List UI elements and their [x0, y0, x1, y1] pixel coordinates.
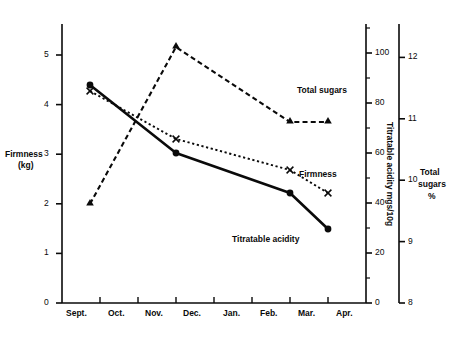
left-tick-label-2: 2 — [44, 199, 49, 209]
month-label-nov: Nov. — [145, 309, 163, 319]
month-label-jan: Jan. — [223, 309, 240, 319]
acidity-axis-title: Titratable acidity mgs/10g — [384, 122, 394, 226]
annotation-titratable-acidity: Titratable acidity — [232, 235, 299, 245]
right-axis-sugars — [399, 24, 405, 303]
x-axis — [62, 297, 366, 303]
acidity-tick-label-60: 60 — [375, 148, 384, 158]
left-tick-label-3: 3 — [44, 149, 49, 159]
month-label-mar: Mar. — [298, 309, 315, 319]
acidity-tick-label-20: 20 — [375, 248, 384, 258]
annotation-total-sugars: Total sugars — [297, 86, 347, 96]
sugars-axis-title-line2: sugars — [418, 180, 446, 190]
sugars-tick-label-10: 10 — [408, 175, 417, 185]
series-total-sugars — [86, 42, 332, 205]
left-tick-label-0: 0 — [44, 298, 49, 308]
sugars-tick-label-8: 8 — [408, 298, 413, 308]
sugars-tick-label-9: 9 — [408, 237, 413, 247]
month-label-apr: Apr. — [336, 309, 353, 319]
left-axis — [56, 24, 62, 303]
sugars-tick-label-11: 11 — [408, 114, 417, 124]
sugars-axis-title-line3: % — [428, 192, 436, 202]
left-axis-title-line2: (kg) — [18, 161, 34, 171]
left-tick-label-1: 1 — [44, 248, 49, 258]
annotation-firmness: Firmness — [299, 170, 337, 180]
month-label-feb: Feb. — [260, 309, 277, 319]
left-tick-label-4: 4 — [44, 100, 49, 110]
chart-container: 5 4 3 2 1 0 Firmness (kg) 100 80 60 40 2… — [0, 0, 451, 344]
series-titratable-acidity — [87, 82, 332, 233]
month-label-dec: Dec. — [183, 309, 201, 319]
right-axis-acidity — [366, 24, 372, 303]
month-label-oct: Oct. — [108, 309, 125, 319]
acidity-tick-label-40: 40 — [375, 198, 384, 208]
sugars-tick-label-12: 12 — [408, 52, 417, 62]
left-axis-title-line1: Firmness — [5, 150, 43, 160]
acidity-tick-label-100: 100 — [375, 48, 389, 58]
month-label-sept: Sept. — [66, 309, 87, 319]
left-tick-label-5: 5 — [44, 50, 49, 60]
acidity-tick-label-0: 0 — [375, 298, 380, 308]
sugars-axis-title-line1: Total — [420, 168, 440, 178]
acidity-tick-label-80: 80 — [375, 98, 384, 108]
